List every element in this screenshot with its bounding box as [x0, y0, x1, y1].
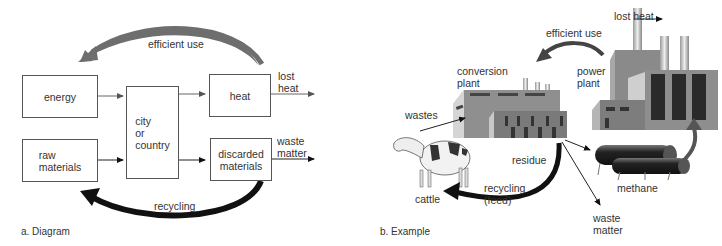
efficient-use-arrow-b [542, 43, 603, 56]
waste-matter-arrow-b [562, 142, 600, 205]
methane-to-power-arrow [682, 128, 695, 162]
waste-matter-label-b: waste matter [593, 212, 623, 236]
conversion-plant-label: conversion plant [457, 65, 508, 89]
residue-label: residue [512, 154, 546, 166]
lost-heat-label-b: lost heat [614, 10, 654, 22]
example-caption: b. Example [380, 226, 430, 237]
efficient-use-label-b: efficient use [546, 27, 602, 39]
cattle-label: cattle [415, 193, 440, 205]
methane-tanks-icon [595, 145, 690, 180]
power-plant-icon [592, 8, 718, 130]
cow-icon [394, 138, 470, 187]
example-illustration [0, 0, 722, 246]
methane-label: methane [617, 182, 658, 194]
power-plant-label: power plant [577, 65, 606, 89]
wastes-label: wastes [405, 109, 438, 121]
recycling-feed-label: recycling (feed) [484, 182, 525, 206]
to-methane-arrow [565, 140, 590, 150]
